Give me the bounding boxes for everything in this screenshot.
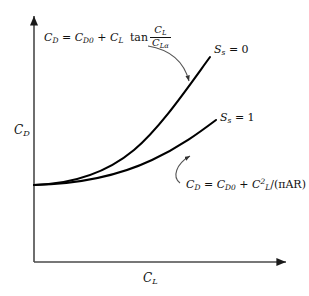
curve-label-ss-1: Ss = 1 (220, 112, 255, 125)
curve-label-ss-1-symbol: S (220, 111, 228, 124)
equation-top-fraction-denominator: CLα (150, 38, 171, 50)
x-axis-label-symbol: C (143, 271, 152, 285)
curve-label-ss-0-sub: s (222, 48, 226, 57)
leader-arrow-top-equation (148, 46, 189, 81)
equation-top-term1: C (75, 31, 83, 44)
curve-label-ss-0-value: 0 (242, 43, 249, 56)
equation-bottom-equals: = (204, 178, 213, 191)
x-axis-label: CL (143, 272, 158, 286)
x-axis-label-sub: L (152, 276, 157, 286)
equation-bottom: CD = CD0 + C2L/(πAR) (186, 178, 306, 192)
equation-bottom-plus: + (239, 178, 248, 191)
equation-top-lhs-sub: D (52, 36, 58, 45)
curve-label-ss-0-symbol: S (214, 43, 222, 56)
curve-label-ss-1-sub: s (228, 116, 232, 125)
equation-top-tan: tan (130, 31, 148, 44)
equation-top: CD = CD0 + CL tanCLCLα (44, 25, 171, 50)
equation-bottom-lhs-sub: D (194, 183, 200, 192)
curve-label-ss-1-equals: = (235, 111, 244, 124)
drag-polar-figure: CD = CD0 + CL tanCLCLα CD = CD0 + C2L/(π… (0, 0, 309, 296)
curve-label-ss-1-value: 1 (248, 111, 255, 124)
equation-top-equals: = (62, 31, 71, 44)
curve-ss-1 (34, 120, 216, 185)
equation-bottom-divisor: /(πAR) (270, 178, 306, 191)
equation-top-plus: + (97, 31, 106, 44)
y-axis-label-symbol: C (14, 123, 23, 137)
equation-top-term1-sub: D0 (83, 36, 94, 45)
curve-label-ss-0-equals: = (229, 43, 238, 56)
equation-bottom-term1: C (217, 178, 225, 191)
curve-ss-0 (34, 57, 210, 185)
curve-label-ss-0: Ss = 0 (214, 44, 249, 57)
y-axis-label-sub: D (23, 128, 30, 138)
equation-top-term2-sub: L (118, 36, 123, 45)
y-axis-label: CD (14, 124, 30, 138)
equation-bottom-term1-sub: D0 (225, 183, 236, 192)
equation-top-fraction: CLCLα (150, 25, 171, 50)
